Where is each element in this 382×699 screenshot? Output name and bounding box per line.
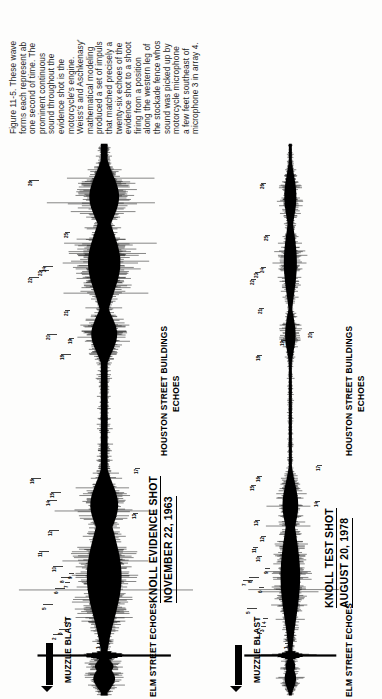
echo-marker-13: 13 bbox=[132, 514, 137, 519]
echo-marker-tick bbox=[53, 566, 63, 567]
echo-marker-12: 12 bbox=[48, 531, 53, 536]
echo-marker-tick bbox=[263, 618, 268, 619]
caption-line-8: Weiss's and Aschkenasy' bbox=[76, 39, 85, 134]
echo-marker-3: 3 bbox=[58, 632, 63, 635]
echo-marker-tick bbox=[257, 556, 262, 557]
title-evidence-shot-line2: NOVEMBER 22, 1963 bbox=[163, 496, 177, 603]
echo-marker-24: 24 bbox=[42, 266, 47, 271]
echo-marker-tick bbox=[265, 568, 270, 569]
echo-marker-tick bbox=[251, 485, 256, 486]
echo-marker-tick bbox=[69, 338, 74, 339]
echo-marker-tick bbox=[257, 476, 262, 477]
trace-test-shot: HOUSTON STREET BUILDINGS ECHOES KNOLL TE… bbox=[196, 140, 374, 699]
echo-marker-1: 1 bbox=[96, 646, 101, 649]
echo-marker-23: 23 bbox=[254, 273, 259, 278]
echo-marker-4: 4 bbox=[64, 621, 69, 624]
caption-line-16: the stockade fence whos bbox=[153, 40, 162, 134]
echo-marker-tick bbox=[43, 604, 53, 605]
echo-marker-4: 4 bbox=[262, 621, 267, 624]
echo-marker-tick bbox=[317, 465, 322, 466]
label-muzzle-blast-1: MUZZLE BLAST bbox=[63, 616, 73, 683]
echo-marker-18: 18 bbox=[60, 354, 65, 359]
echo-marker-9: 9 bbox=[68, 576, 73, 579]
title-evidence-shot-line1: KNOLL EVIDENCE SHOT bbox=[148, 476, 161, 603]
echo-marker-20: 20 bbox=[308, 332, 313, 337]
echo-marker-2: 2 bbox=[256, 637, 261, 640]
echo-marker-tick bbox=[259, 587, 264, 588]
caption-line-3: one second of time. The bbox=[28, 43, 37, 134]
title-test-shot-line2: AUGUST 20, 1978 bbox=[339, 518, 353, 608]
echo-marker-11: 11 bbox=[252, 549, 257, 554]
echo-marker-9: 9 bbox=[264, 572, 269, 575]
echo-marker-16: 16 bbox=[30, 478, 35, 483]
echo-marker-tick bbox=[261, 626, 266, 627]
echo-marker-tick bbox=[285, 643, 290, 644]
echo-marker-tick bbox=[65, 582, 70, 583]
caption-line-1: Figure 11-5. These wave bbox=[9, 41, 18, 134]
echo-marker-14: 14 bbox=[314, 502, 319, 507]
echo-marker-13: 13 bbox=[254, 521, 259, 526]
echo-marker-tick bbox=[281, 340, 286, 341]
echo-marker-tick bbox=[249, 577, 259, 578]
echo-marker-3: 3 bbox=[260, 630, 265, 633]
echo-marker-19: 19 bbox=[68, 339, 73, 344]
echo-marker-tick bbox=[65, 618, 70, 619]
echo-marker-tick bbox=[31, 478, 41, 479]
echo-marker-tick bbox=[61, 354, 71, 355]
echo-marker-21: 21 bbox=[258, 309, 263, 314]
label-elm-street-echoes-2: ELM STREET ECHOES bbox=[344, 603, 354, 697]
echo-marker-tick bbox=[255, 520, 260, 521]
echo-marker-19: 19 bbox=[280, 341, 285, 346]
echo-marker-tick bbox=[65, 310, 70, 311]
caption-line-20: microphone 3 in array 4. bbox=[191, 42, 200, 134]
echo-marker-17: 17 bbox=[134, 469, 139, 474]
caption-line-13: evidence shot to a shoot bbox=[124, 42, 133, 134]
echo-marker-tick bbox=[59, 629, 69, 630]
echo-marker-tick bbox=[265, 235, 270, 236]
echo-marker-6: 6 bbox=[258, 591, 263, 594]
echo-marker-10: 10 bbox=[256, 557, 261, 562]
echo-marker-tick bbox=[253, 547, 258, 548]
label-houston-echoes-1: ECHOES bbox=[171, 375, 181, 412]
echo-marker-5: 5 bbox=[246, 611, 251, 614]
echo-marker-1: 1 bbox=[284, 646, 289, 649]
echo-marker-tick bbox=[49, 530, 59, 531]
echo-marker-tick bbox=[43, 266, 53, 267]
echo-marker-6: 6 bbox=[54, 591, 59, 594]
figure-body: HOUSTON STREET BUILDINGS ECHOES KNOLL EV… bbox=[0, 140, 382, 699]
label-houston-street-buildings-2: HOUSTON STREET BUILDINGS bbox=[344, 326, 354, 456]
echo-marker-10: 10 bbox=[52, 566, 57, 571]
echo-marker-8: 8 bbox=[60, 580, 65, 583]
echo-marker-tick bbox=[39, 551, 49, 552]
echo-marker-25: 25 bbox=[64, 233, 69, 238]
title-test-shot-line1: KNOLL TEST SHOT bbox=[324, 508, 337, 608]
figure-caption: Figure 11-5. These waveforms each repres… bbox=[0, 0, 382, 140]
echo-marker-20: 20 bbox=[46, 335, 51, 340]
label-elm-street-echoes-1: ELM STREET ECHOES bbox=[148, 603, 158, 697]
echo-marker-tick bbox=[261, 267, 266, 268]
echo-marker-7: 7 bbox=[64, 586, 69, 589]
echo-marker-25: 25 bbox=[264, 236, 269, 241]
label-houston-street-buildings-1: HOUSTON STREET BUILDINGS bbox=[159, 326, 169, 456]
echo-marker-18: 18 bbox=[256, 356, 261, 361]
echo-marker-12: 12 bbox=[260, 537, 265, 542]
label-houston-echoes-2: ECHOES bbox=[356, 375, 366, 412]
echo-marker-tick bbox=[251, 279, 256, 280]
echo-marker-22: 22 bbox=[250, 280, 255, 285]
echo-marker-26: 26 bbox=[28, 181, 33, 186]
echo-marker-16: 16 bbox=[256, 477, 261, 482]
echo-marker-tick bbox=[97, 643, 102, 644]
echo-marker-tick bbox=[315, 501, 320, 502]
echo-marker-22: 22 bbox=[28, 277, 33, 282]
echo-marker-tick bbox=[261, 183, 266, 184]
echo-marker-tick bbox=[309, 332, 314, 333]
echo-marker-26: 26 bbox=[260, 184, 265, 189]
echo-marker-tick bbox=[65, 232, 70, 233]
echo-marker-tick bbox=[247, 608, 257, 609]
echo-marker-tick bbox=[69, 573, 74, 574]
caption-line-11: that matched precisely a bbox=[105, 42, 114, 134]
echo-marker-11: 11 bbox=[38, 552, 43, 557]
echo-marker-tick bbox=[257, 633, 262, 634]
echo-marker-tick bbox=[135, 468, 140, 469]
echo-marker-17: 17 bbox=[316, 466, 321, 471]
